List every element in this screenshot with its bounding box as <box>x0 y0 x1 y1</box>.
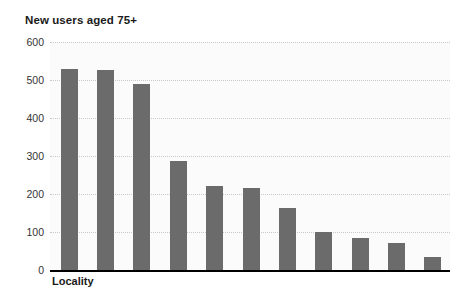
y-axis: 6005004003002001000 <box>0 42 44 270</box>
bar <box>206 186 223 270</box>
y-tick-label: 100 <box>26 226 44 238</box>
bar <box>243 188 260 270</box>
bar <box>61 69 78 270</box>
bar <box>170 161 187 270</box>
bar <box>424 257 441 270</box>
bar <box>279 208 296 270</box>
bar <box>388 243 405 270</box>
y-tick-label: 600 <box>26 36 44 48</box>
x-axis-title: Locality <box>52 275 94 287</box>
x-axis-line <box>50 270 450 272</box>
y-tick-label: 300 <box>26 150 44 162</box>
y-tick-label: 500 <box>26 74 44 86</box>
bar-chart: New users aged 75+ 6005004003002001000 L… <box>0 0 473 296</box>
chart-title: New users aged 75+ <box>25 14 137 26</box>
bars-layer <box>50 42 450 270</box>
y-tick-label: 400 <box>26 112 44 124</box>
y-tick-label: 200 <box>26 188 44 200</box>
bar <box>133 84 150 270</box>
bar <box>352 238 369 270</box>
bar <box>97 70 114 270</box>
y-tick-label: 0 <box>38 264 44 276</box>
bar <box>315 232 332 270</box>
